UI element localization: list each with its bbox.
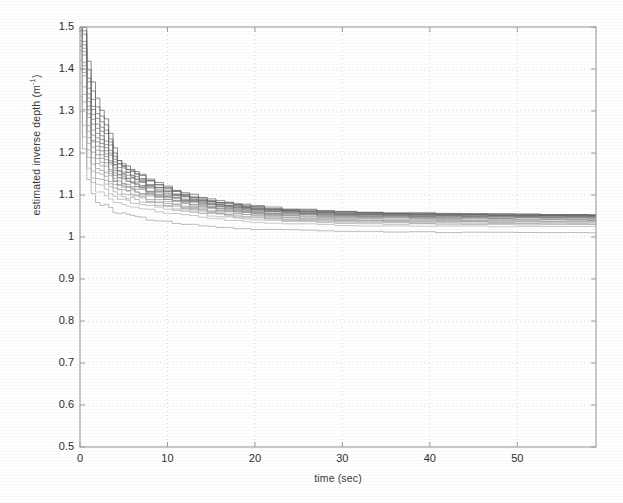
data-curve xyxy=(80,0,596,215)
gridlines xyxy=(80,27,596,447)
data-curve xyxy=(80,41,596,221)
axis-ticks xyxy=(80,27,596,447)
data-curves xyxy=(80,0,596,233)
axis-box xyxy=(80,27,596,447)
data-curve xyxy=(80,15,596,216)
data-curve xyxy=(80,36,596,220)
data-curve xyxy=(80,31,596,219)
data-curve xyxy=(80,0,596,215)
axis-frame xyxy=(80,27,596,447)
plot-area xyxy=(0,0,623,503)
data-curve xyxy=(80,69,596,224)
figure-canvas: estimated inverse depth (m-1) 0.50.60.70… xyxy=(0,0,623,503)
data-curve xyxy=(80,1,596,216)
data-curve xyxy=(80,0,596,215)
